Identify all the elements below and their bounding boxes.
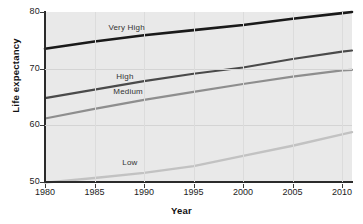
plot-area xyxy=(45,12,352,182)
gridline-vertical xyxy=(342,12,343,182)
x-tick-label: 1990 xyxy=(124,188,164,197)
x-tick-label: 2005 xyxy=(273,188,313,197)
y-axis-tick xyxy=(40,12,45,13)
y-axis-tick xyxy=(40,125,45,126)
gridline-vertical xyxy=(144,12,145,182)
y-axis-tick xyxy=(40,69,45,70)
y-axis-tick xyxy=(40,182,45,183)
series-label-medium: Medium xyxy=(113,87,143,96)
series-line-low xyxy=(45,132,352,182)
x-axis-line xyxy=(44,181,353,183)
gridline-horizontal xyxy=(45,69,352,70)
x-tick-label: 2000 xyxy=(223,188,263,197)
gridline-vertical xyxy=(243,12,244,182)
gridline-vertical xyxy=(194,12,195,182)
y-tick-label: 60 xyxy=(20,120,40,129)
series-label-very-high: Very High xyxy=(108,23,144,32)
chart-figure: 50607080 1980198519901995200020052010 Ve… xyxy=(0,0,363,224)
x-tick-label: 2010 xyxy=(322,188,362,197)
gridline-vertical xyxy=(95,12,96,182)
series-line-very-high xyxy=(45,12,352,49)
gridline-horizontal xyxy=(45,125,352,126)
series-line-medium xyxy=(45,70,352,119)
y-tick-label: 70 xyxy=(20,64,40,73)
y-tick-label: 80 xyxy=(20,7,40,16)
series-label-high: High xyxy=(116,72,133,81)
x-tick-label: 1985 xyxy=(75,188,115,197)
x-axis-title: Year xyxy=(0,205,363,216)
x-tick-label: 1995 xyxy=(174,188,214,197)
series-label-low: Low xyxy=(122,158,137,167)
y-axis-title: Life expectancy xyxy=(10,16,21,136)
series-lines xyxy=(45,12,352,182)
y-tick-label: 50 xyxy=(20,177,40,186)
x-tick-label: 1980 xyxy=(25,188,65,197)
y-axis-line xyxy=(44,11,46,183)
gridline-vertical xyxy=(293,12,294,182)
